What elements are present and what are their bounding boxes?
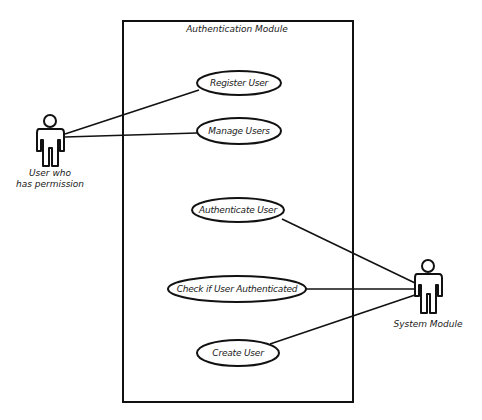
use-case-label-authenticate-user: Authenticate User <box>199 205 277 215</box>
actor-label-user-line1: User who <box>29 168 71 179</box>
association-line <box>282 219 415 283</box>
actor-user-icon <box>37 115 64 166</box>
use-case-label-check-if-user-authenticated: Check if User Authenticated <box>177 284 298 294</box>
association-line <box>65 90 199 134</box>
actor-label-system: System Module <box>393 319 462 330</box>
actor-label-user-line2: has permission <box>16 179 84 190</box>
actor-system-icon <box>415 260 442 313</box>
system-boundary-title: Authentication Module <box>186 24 288 35</box>
use-case-label-create-user: Create User <box>212 348 263 358</box>
association-line <box>65 133 197 137</box>
use-case-label-manage-users: Manage Users <box>208 126 269 136</box>
use-case-label-register-user: Register User <box>210 78 268 88</box>
